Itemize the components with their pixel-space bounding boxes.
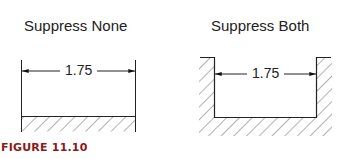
dimension-value-left: 1.75 (64, 62, 93, 78)
hatched-base (22, 117, 136, 132)
dimension-value-right: 1.75 (251, 65, 280, 81)
dimension-diagrams (0, 0, 352, 159)
figure-caption: FIGURE 11.10 (1, 141, 88, 154)
